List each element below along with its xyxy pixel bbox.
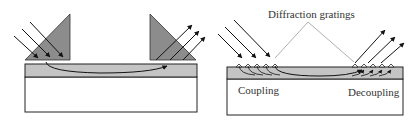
input-prism — [25, 14, 70, 60]
coupling-label: Coupling — [238, 84, 279, 96]
left-substrate — [25, 77, 197, 112]
incident-beams-right — [218, 20, 270, 58]
gratings-leader-lines — [275, 22, 354, 62]
diffraction-gratings-label: Diffraction gratings — [268, 8, 355, 20]
waveguide-coupling-diagram: Diffraction gratings Coupling Decoupling — [0, 0, 420, 120]
left-waveguide-film — [25, 64, 197, 77]
output-beams-right — [355, 30, 404, 63]
prism-coupling-panel — [14, 14, 205, 112]
grating-coupling-panel: Diffraction gratings Coupling Decoupling — [218, 8, 404, 115]
decoupling-label: Decoupling — [348, 86, 400, 98]
